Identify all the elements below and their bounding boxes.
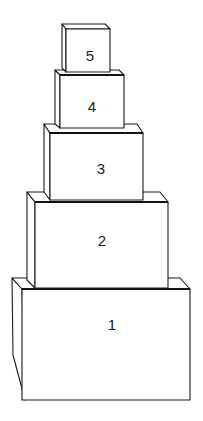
box-stack-diagram: 1 2 3 4 5	[0, 0, 203, 421]
box-4-label: 4	[88, 98, 96, 115]
box-5-top	[62, 24, 110, 29]
box-1-front	[22, 289, 190, 400]
box-2-label: 2	[98, 232, 106, 249]
box-2-side	[27, 192, 35, 288]
diagram-canvas: 1 2 3 4 5	[0, 0, 203, 421]
box-5-label: 5	[86, 47, 94, 64]
box-2: 2	[27, 192, 168, 288]
box-3: 3	[44, 124, 143, 200]
box-3-label: 3	[97, 160, 105, 177]
box-5: 5	[62, 24, 110, 72]
box-1-label: 1	[108, 316, 116, 333]
box-4: 4	[55, 70, 124, 128]
box-1: 1	[12, 278, 190, 400]
box-3-side	[44, 124, 50, 200]
box-4-side	[55, 70, 60, 128]
box-5-side	[62, 24, 66, 72]
